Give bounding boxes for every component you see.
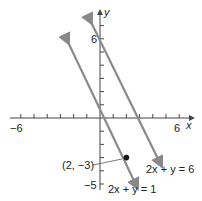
y-max-label: 6: [91, 33, 97, 45]
x-max-label: 6: [174, 122, 180, 134]
point-2-neg3: [124, 155, 130, 161]
point-label: (2, −3): [62, 159, 94, 171]
point-leader: [93, 159, 122, 165]
line1-label: 2x + y = 1: [108, 183, 156, 195]
y-min-label: −5: [84, 179, 97, 191]
graph: y x −6 6 6 −5 (2, −3) 2x + y = 1 2x + y …: [0, 0, 202, 201]
x-min-label: −6: [10, 122, 23, 134]
y-axis-label: y: [103, 6, 111, 18]
x-axis-label: x: [185, 119, 192, 131]
line2-label: 2x + y = 6: [146, 163, 194, 175]
